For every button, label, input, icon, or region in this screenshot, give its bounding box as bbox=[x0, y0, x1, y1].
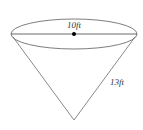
center-dot bbox=[72, 32, 76, 36]
slant-height-label: 13ft bbox=[110, 77, 125, 87]
diameter-label: 10ft bbox=[67, 20, 82, 30]
cone-diagram: 10ft 13ft bbox=[0, 0, 143, 130]
cone-left-side bbox=[13, 37, 74, 120]
cone-right-side bbox=[74, 37, 135, 120]
